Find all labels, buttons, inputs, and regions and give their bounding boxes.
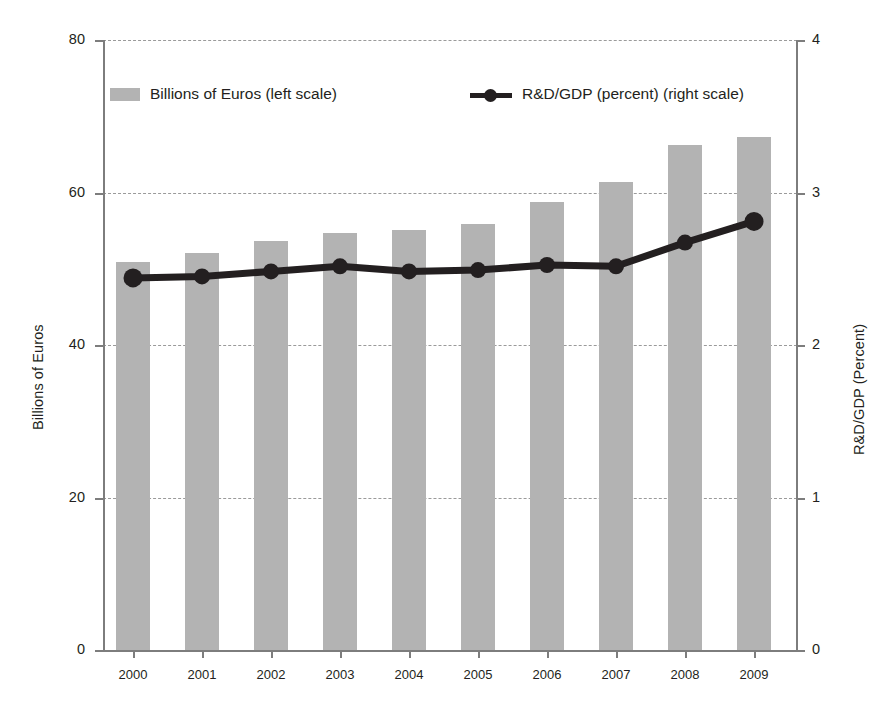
- legend-label-line: R&D/GDP (percent) (right scale): [522, 85, 744, 103]
- left-tick-label-20: 20: [40, 489, 85, 505]
- x-tick-2006: [547, 650, 549, 658]
- bar-2001: [185, 253, 219, 650]
- x-tick-2008: [685, 650, 687, 658]
- bar-2000: [116, 262, 150, 650]
- left-tick-label-80: 80: [40, 31, 85, 47]
- x-tick-2000: [133, 650, 135, 658]
- right-tick-1: [796, 498, 805, 500]
- right-tick-0: [796, 650, 805, 652]
- bar-2009: [737, 137, 771, 650]
- legend-bar-swatch-icon: [110, 88, 140, 101]
- x-axis-label-2009: 2009: [719, 667, 789, 682]
- bar-2008: [668, 145, 702, 650]
- bar-2005: [461, 224, 495, 650]
- x-axis-label-2001: 2001: [167, 667, 237, 682]
- chart-container: 80 60 40 20 0 4 3 2 1 0 Billions of Euro…: [0, 0, 870, 705]
- x-tick-2009: [754, 650, 756, 658]
- left-tick-40: [95, 345, 104, 347]
- x-tick-2001: [202, 650, 204, 658]
- bar-2007: [599, 182, 633, 650]
- bar-2004: [392, 230, 426, 650]
- x-axis-label-2005: 2005: [443, 667, 513, 682]
- left-axis-title: Billions of Euros: [30, 324, 46, 430]
- x-tick-2002: [271, 650, 273, 658]
- left-tick-label-0: 0: [40, 641, 85, 657]
- right-tick-label-2: 2: [812, 336, 852, 352]
- left-tick-80: [95, 40, 104, 42]
- right-tick-3: [796, 193, 805, 195]
- bar-2003: [323, 233, 357, 650]
- x-tick-2005: [478, 650, 480, 658]
- legend-item-line: R&D/GDP (percent) (right scale): [470, 85, 744, 103]
- x-tick-2004: [409, 650, 411, 658]
- x-axis-label-2006: 2006: [512, 667, 582, 682]
- left-tick-60: [95, 193, 104, 195]
- x-axis-label-2003: 2003: [305, 667, 375, 682]
- left-tick-20: [95, 498, 104, 500]
- bar-2002: [254, 241, 288, 650]
- x-axis-label-2008: 2008: [650, 667, 720, 682]
- right-tick-label-4: 4: [812, 31, 852, 47]
- x-axis-label-2007: 2007: [581, 667, 651, 682]
- right-tick-2: [796, 345, 805, 347]
- left-tick-label-60: 60: [40, 184, 85, 200]
- rnd-gdp-line: [133, 221, 754, 278]
- bar-2006: [530, 202, 564, 650]
- x-tick-2003: [340, 650, 342, 658]
- x-axis-label-2002: 2002: [236, 667, 306, 682]
- x-axis-line: [103, 650, 797, 652]
- x-axis-label-2000: 2000: [98, 667, 168, 682]
- right-tick-label-0: 0: [812, 641, 852, 657]
- legend-item-bars: Billions of Euros (left scale): [110, 85, 337, 103]
- x-tick-2007: [616, 650, 618, 658]
- legend-label-bars: Billions of Euros (left scale): [150, 85, 337, 103]
- left-tick-0: [95, 650, 104, 652]
- right-tick-label-1: 1: [812, 489, 852, 505]
- right-tick-label-3: 3: [812, 184, 852, 200]
- x-axis-label-2004: 2004: [374, 667, 444, 682]
- legend-line-dot-swatch-icon: [470, 88, 512, 101]
- legend-line-marker-icon: [484, 89, 497, 102]
- right-tick-4: [796, 40, 805, 42]
- left-tick-label-40: 40: [40, 336, 85, 352]
- gridline-80: [103, 40, 797, 41]
- right-axis-title: R&D/GDP (Percent): [851, 324, 867, 455]
